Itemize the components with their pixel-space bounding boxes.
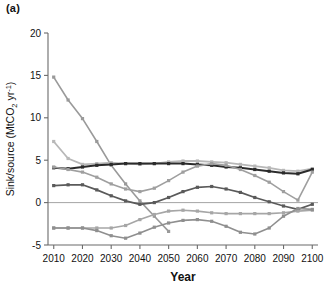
data-point-mid-lower-dark (81, 183, 84, 186)
data-point-mid-lower-dark (95, 188, 98, 191)
data-point-mid-lower-dark (196, 186, 199, 189)
data-point-deep-dip-gray (81, 226, 84, 229)
data-point-mid-dip-gray (81, 171, 84, 174)
data-point-mid-lower-dark (167, 196, 170, 199)
data-point-deep-dip-gray (52, 226, 55, 229)
data-point-flat-low-gray (239, 212, 242, 215)
x-tick-label: 2010 (43, 253, 66, 264)
series-line-steep-decline (54, 77, 169, 231)
x-tick-label: 2080 (244, 253, 267, 264)
data-point-mid-dip-gray (167, 179, 170, 182)
data-point-light-gray-upper (196, 159, 199, 162)
data-point-mid-dip-gray (296, 199, 299, 202)
data-point-deep-dip-gray (282, 215, 285, 218)
data-point-mid-dip-gray (138, 190, 141, 193)
data-point-flat-low-gray (153, 213, 156, 216)
data-point-dark-band (110, 163, 113, 166)
x-tick-label: 2030 (100, 253, 123, 264)
data-point-mid-dip-gray (95, 176, 98, 179)
y-tick-label: -5 (32, 240, 41, 251)
series-line-mid-lower-dark (54, 185, 313, 210)
data-point-steep-decline (124, 182, 127, 185)
y-axis-title: Sink/source (MtCO2 yr-1) (4, 82, 20, 197)
data-point-mid-dip-gray (239, 168, 242, 171)
data-point-flat-low-gray (282, 211, 285, 214)
data-point-mid-dip-gray (153, 187, 156, 190)
data-point-mid-dip-gray (210, 162, 213, 165)
data-point-steep-decline (81, 117, 84, 120)
data-point-steep-decline (95, 140, 98, 143)
data-point-mid-dip-gray (268, 181, 271, 184)
data-point-mid-lower-dark (67, 183, 70, 186)
y-tick-label: 5 (35, 155, 41, 166)
data-point-flat-low-gray (196, 210, 199, 213)
data-point-light-gray-upper (239, 163, 242, 166)
data-point-steep-decline (52, 76, 55, 79)
data-point-deep-dip-gray (95, 229, 98, 232)
data-point-mid-lower-dark (239, 191, 242, 194)
data-point-mid-dip-gray (196, 165, 199, 168)
data-point-deep-dip-gray (239, 231, 242, 234)
line-chart: -505101520201020202030204020502060207020… (0, 0, 330, 285)
data-point-mid-dip-gray (110, 182, 113, 185)
x-tick-label: 2090 (272, 253, 295, 264)
data-point-deep-dip-gray (110, 234, 113, 237)
y-tick-label: 20 (30, 28, 42, 39)
data-point-light-gray-upper (67, 157, 70, 160)
data-point-mid-lower-dark (282, 204, 285, 207)
data-point-deep-dip-gray (196, 218, 199, 221)
data-point-mid-dip-gray (282, 190, 285, 193)
data-point-light-gray-upper (253, 165, 256, 168)
data-point-flat-low-gray (253, 212, 256, 215)
data-point-mid-lower-dark (210, 185, 213, 188)
data-point-mid-lower-dark (268, 200, 271, 203)
data-point-deep-dip-gray (253, 232, 256, 235)
data-point-mid-lower-dark (181, 190, 184, 193)
y-tick-label: 0 (35, 197, 41, 208)
data-point-deep-dip-gray (153, 226, 156, 229)
data-point-flat-low-gray (210, 211, 213, 214)
data-point-mid-dip-gray (253, 174, 256, 177)
data-point-dark-band (282, 171, 285, 174)
x-tick-label: 2020 (71, 253, 94, 264)
data-point-dark-band (95, 164, 98, 167)
x-tick-label: 2040 (129, 253, 152, 264)
data-point-deep-dip-gray (138, 232, 141, 235)
data-point-mid-lower-dark (52, 184, 55, 187)
data-point-deep-dip-gray (311, 208, 314, 211)
data-point-mid-lower-dark (138, 203, 141, 206)
data-point-mid-dip-gray (124, 187, 127, 190)
data-point-dark-band (253, 168, 256, 171)
x-axis-title: Year (170, 270, 196, 284)
data-point-dark-band (138, 162, 141, 165)
data-point-deep-dip-gray (181, 219, 184, 222)
data-point-dark-band (153, 162, 156, 165)
data-point-mid-lower-dark (153, 201, 156, 204)
data-point-deep-dip-gray (167, 221, 170, 224)
x-tick-label: 2100 (301, 253, 324, 264)
data-point-deep-dip-gray (225, 225, 228, 228)
x-tick-label: 2070 (215, 253, 238, 264)
y-tick-label: 10 (30, 112, 42, 123)
data-point-deep-dip-gray (268, 226, 271, 229)
figure-panel: (a) -50510152020102020203020402050206020… (0, 0, 330, 285)
data-point-mid-lower-dark (253, 196, 256, 199)
data-point-deep-dip-gray (124, 237, 127, 240)
data-point-mid-dip-gray (225, 164, 228, 167)
data-point-mid-dip-gray (67, 168, 70, 171)
data-point-dark-band (296, 172, 299, 175)
data-point-light-gray-upper (268, 166, 271, 169)
data-point-mid-dip-gray (52, 165, 55, 168)
data-point-steep-decline (67, 98, 70, 101)
data-point-dark-band (268, 170, 271, 173)
data-point-deep-dip-gray (67, 226, 70, 229)
data-point-mid-dip-gray (181, 171, 184, 174)
data-point-dark-band (167, 162, 170, 165)
data-point-light-gray-upper (52, 140, 55, 143)
data-point-steep-decline (167, 230, 170, 233)
data-point-flat-low-gray (167, 210, 170, 213)
data-point-dark-band (124, 162, 127, 165)
data-point-flat-low-gray (225, 212, 228, 215)
data-point-dark-band (181, 162, 184, 165)
data-point-flat-low-gray (110, 226, 113, 229)
